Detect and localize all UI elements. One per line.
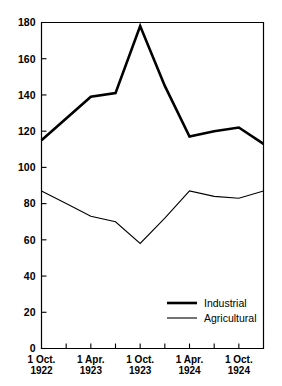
y-tick-label: 40 [24, 270, 36, 282]
x-tick-label-date: 1 Oct. [126, 354, 154, 365]
chart-legend: IndustrialAgricultural [167, 297, 257, 324]
y-tick-label: 80 [24, 197, 36, 209]
y-tick-label: 100 [18, 161, 36, 173]
x-tick-label-date: 1 Oct. [225, 354, 253, 365]
y-tick-label: 120 [18, 125, 36, 137]
y-tick-label: 160 [18, 53, 36, 65]
series-group [42, 26, 264, 243]
line-chart: 0204060801001201401601801 Oct.19221 Apr.… [0, 0, 282, 386]
x-tick-label-year: 1923 [80, 365, 103, 376]
series-line-agricultural [42, 191, 264, 244]
y-tick-label: 140 [18, 89, 36, 101]
y-tick-label: 60 [24, 234, 36, 246]
y-tick-label: 20 [24, 306, 36, 318]
series-line-industrial [42, 26, 264, 144]
chart-container: 0204060801001201401601801 Oct.19221 Apr.… [0, 0, 282, 386]
x-axis [66, 344, 239, 349]
x-tick-label-date: 1 Apr. [77, 354, 105, 365]
y-tick-label: 0 [30, 342, 36, 354]
x-tick-labels: 1 Oct.19221 Apr.19231 Oct.19231 Apr.1924… [28, 354, 253, 376]
x-tick-label-year: 1922 [30, 365, 53, 376]
legend-label-agricultural: Agricultural [204, 312, 257, 324]
legend-label-industrial: Industrial [204, 297, 247, 309]
x-tick-label-year: 1924 [178, 365, 201, 376]
x-tick-label-date: 1 Apr. [176, 354, 204, 365]
x-tick-label-date: 1 Oct. [28, 354, 56, 365]
x-tick-label-year: 1924 [228, 365, 251, 376]
y-axis: 020406080100120140160180 [18, 16, 47, 354]
y-tick-label: 180 [18, 16, 36, 28]
x-tick-label-year: 1923 [129, 365, 152, 376]
